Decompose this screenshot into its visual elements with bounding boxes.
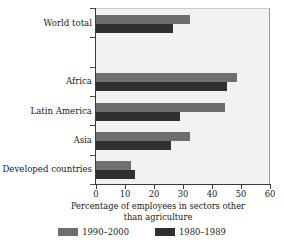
x-axis-title: Percentage of employees in sectors other… <box>40 201 276 222</box>
y-axis-tick <box>90 125 95 126</box>
legend-item-1980-1989: 1980–1989 <box>155 227 226 237</box>
x-axis-tick-label: 40 <box>200 189 224 199</box>
category-label: Asia <box>74 135 93 145</box>
category-label: Latin America <box>30 106 92 116</box>
legend-swatch-1980-1989 <box>155 228 175 236</box>
legend: 1990–2000 1980–1989 <box>0 227 284 237</box>
legend-swatch-1990-2000 <box>58 228 78 236</box>
bar-recent <box>96 15 190 24</box>
bar-recent <box>96 161 131 170</box>
bar-recent <box>96 132 190 141</box>
bar-recent <box>96 73 237 82</box>
x-axis-title-line-1: Percentage of employees in sectors other <box>40 201 276 212</box>
bar-older <box>96 112 180 121</box>
bar-chart-figure: World totalAfricaLatin AmericaAsiaDevelo… <box>0 0 284 247</box>
bar-older <box>96 24 173 33</box>
x-axis-tick-label: 10 <box>113 189 137 199</box>
legend-item-1990-2000: 1990–2000 <box>58 227 129 237</box>
y-axis-tick <box>90 67 95 68</box>
y-axis-line <box>95 8 96 185</box>
x-axis-tick-label: 20 <box>142 189 166 199</box>
y-axis-tick <box>90 37 95 38</box>
plot-area <box>96 8 270 184</box>
bar-older <box>96 82 227 91</box>
y-axis-tick <box>90 184 95 185</box>
x-axis-tick-label: 60 <box>258 189 282 199</box>
x-axis-tick-label: 0 <box>84 189 108 199</box>
legend-label-1980-1989: 1980–1989 <box>179 227 226 237</box>
x-axis-title-line-2: than agriculture <box>40 212 276 223</box>
category-label: Africa <box>66 76 92 86</box>
bars-container <box>96 9 269 184</box>
category-label: Developed countries <box>2 164 92 174</box>
bar-older <box>96 141 171 150</box>
y-axis-tick <box>90 155 95 156</box>
x-axis-tick-label: 30 <box>171 189 195 199</box>
category-label: World total <box>44 18 92 28</box>
y-axis-tick <box>90 96 95 97</box>
bar-recent <box>96 103 225 112</box>
legend-label-1990-2000: 1990–2000 <box>82 227 129 237</box>
y-axis-tick <box>90 8 95 9</box>
bar-older <box>96 170 135 179</box>
x-axis-tick-label: 50 <box>229 189 253 199</box>
